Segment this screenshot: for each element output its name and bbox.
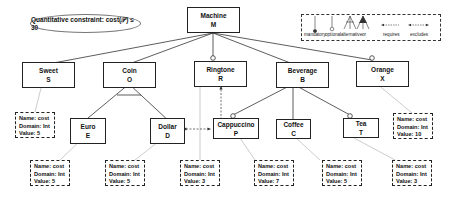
feature-abbr: D: [165, 131, 170, 140]
feature-ringtone[interactable]: Ringtone R: [194, 61, 247, 87]
feature-abbr: S: [46, 75, 50, 84]
feature-abbr: O: [127, 75, 132, 84]
feature-name: Coffee: [283, 120, 303, 129]
attr-domain: Domain: Int: [396, 171, 428, 179]
feature-abbr: P: [234, 129, 238, 138]
attr-domain: Domain: Int: [184, 171, 216, 179]
feature-name: Machine: [200, 11, 226, 20]
feature-tea[interactable]: Tea T: [343, 118, 379, 138]
feature-abbr: B: [300, 75, 305, 84]
attribute-euro: Name: cost Domain: Int Value: 5: [30, 160, 70, 186]
attr-name: Name: cost: [34, 163, 66, 171]
attribute-coffee: Name: cost Domain: Int Value: 5: [322, 160, 362, 186]
feature-coin[interactable]: Coin O: [103, 62, 156, 88]
attr-name: Name: cost: [258, 163, 290, 171]
attribute-orange: Name: cost Domain: Int Value: 10: [393, 113, 433, 139]
feature-coffee[interactable]: Coffee C: [276, 119, 311, 139]
feature-abbr: E: [86, 131, 90, 140]
feature-name: Euro: [81, 122, 96, 131]
quantitative-constraint: Quantitative constraint: cost(𝒫) ≤ 30: [30, 14, 141, 33]
attribute-ringtone: Name: cost Domain: Int Value: 3: [180, 160, 220, 186]
feature-abbr: T: [359, 128, 363, 137]
legend-requires: requires: [383, 32, 400, 37]
attribute-dollar: Name: cost Domain: Int Value: 5: [105, 160, 145, 186]
attribute-tea: Name: cost Domain: Int Value: 3: [392, 160, 432, 186]
legend-optional: optional: [325, 32, 341, 37]
attr-name: Name: cost: [397, 116, 429, 124]
attr-name: Name: cost: [326, 163, 358, 171]
constraint-text: Quantitative constraint: cost(𝒫) ≤ 30: [31, 16, 140, 31]
feature-name: Coin: [122, 66, 136, 75]
attr-value: Value: 3: [184, 178, 216, 186]
feature-dollar[interactable]: Dollar D: [150, 118, 185, 144]
attribute-sweet: Name: cost Domain: Int Value: 5: [15, 112, 55, 138]
attribute-cappuccino: Name: cost Domain: Int Value: 7: [254, 160, 294, 186]
feature-name: Orange: [371, 65, 394, 74]
attr-domain: Domain: Int: [326, 171, 358, 179]
feature-euro[interactable]: Euro E: [70, 118, 106, 144]
attr-name: Name: cost: [396, 163, 428, 171]
attr-value: Value: 5: [19, 130, 51, 138]
attr-value: Value: 5: [109, 178, 141, 186]
attr-name: Name: cost: [109, 163, 141, 171]
feature-name: Cappuccino: [217, 120, 254, 129]
feature-abbr: M: [211, 20, 216, 29]
feature-name: Ringtone: [206, 65, 234, 74]
attr-domain: Domain: Int: [258, 171, 290, 179]
feature-machine[interactable]: Machine M: [187, 7, 240, 33]
feature-name: Dollar: [158, 122, 176, 131]
feature-name: Sweet: [39, 66, 58, 75]
feature-cappuccino[interactable]: Cappuccino P: [213, 118, 259, 139]
attr-domain: Domain: Int: [109, 171, 141, 179]
attr-domain: Domain: Int: [19, 123, 51, 131]
feature-abbr: R: [218, 74, 223, 83]
attr-name: Name: cost: [19, 115, 51, 123]
feature-beverage[interactable]: Beverage B: [276, 62, 329, 88]
attr-domain: Domain: Int: [397, 124, 429, 132]
attr-value: Value: 5: [326, 178, 358, 186]
feature-abbr: C: [291, 129, 296, 138]
legend-or: or: [362, 32, 366, 37]
attr-name: Name: cost: [184, 163, 216, 171]
legend-mandatory: mandatory: [304, 32, 326, 37]
feature-name: Tea: [356, 119, 367, 128]
attr-value: Value: 3: [396, 178, 428, 186]
feature-name: Beverage: [288, 66, 317, 75]
legend-excludes: excludes: [410, 32, 428, 37]
attr-value: Value: 7: [258, 178, 290, 186]
legend: mandatory optional alternative or requir…: [301, 14, 441, 41]
attr-value: Value: 5: [34, 178, 66, 186]
attr-domain: Domain: Int: [34, 171, 66, 179]
feature-abbr: X: [380, 74, 384, 83]
feature-sweet[interactable]: Sweet S: [22, 62, 75, 88]
feature-orange[interactable]: Orange X: [356, 61, 409, 87]
attr-value: Value: 10: [397, 131, 429, 139]
legend-alternative: alternative: [341, 32, 362, 37]
